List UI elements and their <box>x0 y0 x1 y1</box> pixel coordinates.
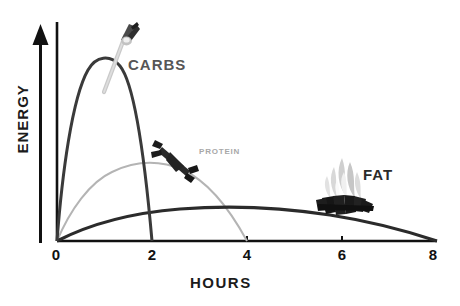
series-curve-fat <box>57 207 437 241</box>
x-tick-label-4: 4 <box>237 246 257 263</box>
meat-icon <box>151 140 199 183</box>
x-tick-label-8: 8 <box>423 246 443 263</box>
series-label-protein: PROTEIN <box>199 147 240 156</box>
series-label-fat: FAT <box>363 166 393 183</box>
x-tick-label-6: 6 <box>332 246 352 263</box>
energy-release-chart: ENERGY HOURS 0 2 4 6 8 CARBS PROTEIN FAT <box>0 0 460 306</box>
y-axis-label: ENERGY <box>14 98 31 154</box>
x-tick-label-2: 2 <box>142 246 162 263</box>
series-label-carbs: CARBS <box>128 56 186 73</box>
x-tick-label-0: 0 <box>46 246 66 263</box>
energy-direction-arrow <box>33 24 49 243</box>
x-axis-label: HOURS <box>190 274 252 291</box>
